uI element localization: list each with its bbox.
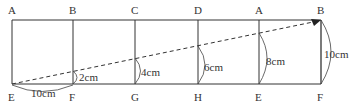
label-f-right: F bbox=[317, 91, 323, 103]
label-b: B bbox=[69, 4, 76, 16]
measure-bf-full: 10cm bbox=[324, 48, 349, 60]
label-a: A bbox=[8, 4, 16, 16]
arc-bf bbox=[73, 71, 77, 84]
label-c: C bbox=[131, 4, 138, 16]
label-b-right: B bbox=[317, 4, 324, 16]
label-a-right: A bbox=[255, 4, 263, 16]
measure-bf: 2cm bbox=[79, 71, 98, 83]
label-f: F bbox=[69, 91, 75, 103]
label-e-right: E bbox=[255, 91, 262, 103]
arrowhead-icon bbox=[311, 19, 321, 26]
measure-cg: 4cm bbox=[141, 66, 160, 78]
measure-base: 10cm bbox=[31, 87, 56, 99]
measure-ae: 8cm bbox=[266, 55, 285, 67]
label-g: G bbox=[131, 91, 139, 103]
arc-cg bbox=[135, 58, 141, 84]
dashed-path bbox=[12, 21, 318, 84]
label-e: E bbox=[8, 91, 15, 103]
label-h: H bbox=[194, 91, 202, 103]
unfolded-prism-diagram: A B C D A B E F G H E F 10cm 2cm 4cm 6cm… bbox=[0, 0, 355, 109]
measure-dh: 6cm bbox=[204, 61, 223, 73]
label-d: D bbox=[194, 4, 202, 16]
